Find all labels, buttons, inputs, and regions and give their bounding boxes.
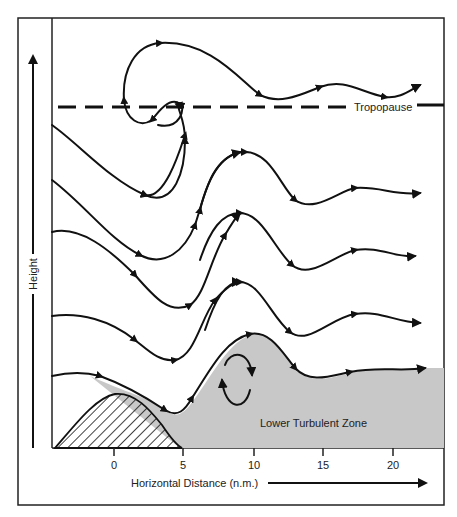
x-tick-0: 0: [111, 459, 117, 471]
x-tick-5: 5: [180, 459, 186, 471]
x-tick-20: 20: [387, 459, 399, 471]
mountain-wave-diagram: Tropopause Lower Turbulent Zone 0 5 10 1…: [0, 0, 457, 517]
y-axis-label: Height: [27, 258, 39, 290]
x-tick-15: 15: [317, 459, 329, 471]
x-ticks: 0 5 10 15 20: [111, 448, 399, 471]
streamline-5: [52, 282, 240, 360]
streamline-3: [52, 152, 240, 259]
tropopause-label: Tropopause: [354, 101, 412, 113]
lower-turbulent-zone-label: Lower Turbulent Zone: [260, 417, 367, 429]
streamline-4b: [205, 282, 420, 336]
x-axis-label: Horizontal Distance (n.m.): [131, 477, 258, 489]
streamline-4: [52, 213, 240, 308]
x-tick-10: 10: [248, 459, 260, 471]
streamline-2: [52, 104, 420, 210]
streamline-top: [124, 43, 420, 126]
